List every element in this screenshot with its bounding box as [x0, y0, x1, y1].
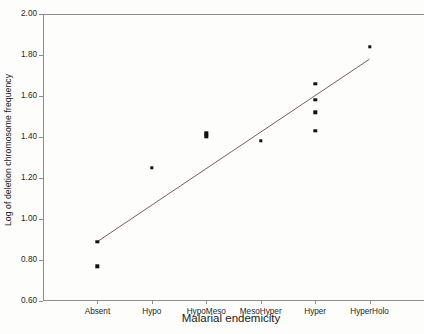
regression-line	[43, 14, 424, 301]
y-axis-tick-label: 1.80	[21, 50, 37, 59]
y-axis-title: Log of deletion chromosome frequency	[0, 0, 16, 300]
data-point	[313, 82, 316, 85]
y-axis-tick-label: 1.60	[21, 91, 37, 100]
y-axis-title-text: Log of deletion chromosome frequency	[3, 74, 13, 226]
y-axis-tick-label: 0.80	[21, 255, 37, 264]
data-point	[96, 240, 99, 243]
data-point	[259, 139, 262, 142]
y-axis-tick-label: 2.00	[21, 9, 37, 18]
data-point	[150, 166, 153, 169]
plot-area: 2.001.801.601.401.201.000.800.60 AbsentH…	[43, 14, 424, 301]
data-point	[313, 98, 316, 101]
y-axis-tick-label: 1.20	[21, 173, 37, 182]
scatter-plot-figure: Log of deletion chromosome frequency 2.0…	[0, 0, 424, 334]
data-point	[96, 264, 99, 267]
data-point	[368, 45, 371, 48]
y-axis-tick-label: 1.00	[21, 214, 37, 223]
data-point	[313, 129, 316, 132]
y-axis-tick-label: 1.40	[21, 132, 37, 141]
y-axis-tick-label: 0.60	[21, 296, 37, 305]
x-axis-title-text: Malarial endemicity	[182, 312, 280, 324]
data-point	[205, 135, 208, 138]
y-axis-tick: 0.60	[39, 301, 43, 302]
x-axis-title: Malarial endemicity	[38, 312, 424, 324]
data-point	[313, 111, 316, 114]
